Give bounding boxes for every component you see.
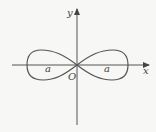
y-axis-label: y: [66, 7, 73, 18]
right-a-label: a: [104, 63, 110, 74]
left-a-label: a: [45, 63, 51, 74]
lemniscate-diagram: y x O a a: [0, 0, 156, 132]
x-axis-label: x: [143, 65, 149, 76]
origin-label: O: [68, 71, 76, 82]
